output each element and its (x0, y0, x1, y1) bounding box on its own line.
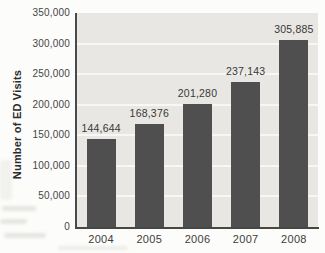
y-tick-label: 250,000 (0, 68, 70, 79)
y-tick-label: 150,000 (0, 129, 70, 140)
x-tick-label: 2005 (124, 233, 174, 245)
x-tick-label: 2008 (269, 233, 319, 245)
bar-2008 (279, 40, 308, 227)
scan-artifact (4, 233, 46, 238)
bar-2005 (135, 124, 164, 227)
ed-visits-bar-chart: Number of ED Visits 144,644168,376201,28… (0, 0, 325, 253)
plot-area: 144,644168,376201,280237,143305,885 (77, 13, 318, 227)
y-tick-label: 200,000 (0, 99, 70, 110)
bar-value-label: 237,143 (214, 65, 278, 77)
scan-artifact (58, 246, 128, 250)
x-tick-label: 2007 (221, 233, 271, 245)
bar-value-label: 201,280 (166, 87, 230, 99)
bar-2004 (87, 139, 116, 227)
bar-2007 (231, 82, 260, 227)
x-tick-label: 2004 (76, 233, 126, 245)
y-tick-label: 300,000 (0, 38, 70, 49)
x-tick-label: 2006 (173, 233, 223, 245)
scan-artifact (2, 206, 36, 211)
bar-2006 (183, 104, 212, 227)
scan-artifact (0, 160, 12, 200)
x-axis-line (75, 227, 319, 229)
bar-value-label: 168,376 (117, 107, 181, 119)
bar-value-label: 144,644 (69, 122, 133, 134)
scan-artifact (0, 219, 27, 224)
bar-value-label: 305,885 (262, 23, 325, 35)
y-tick-label: 350,000 (0, 7, 70, 18)
